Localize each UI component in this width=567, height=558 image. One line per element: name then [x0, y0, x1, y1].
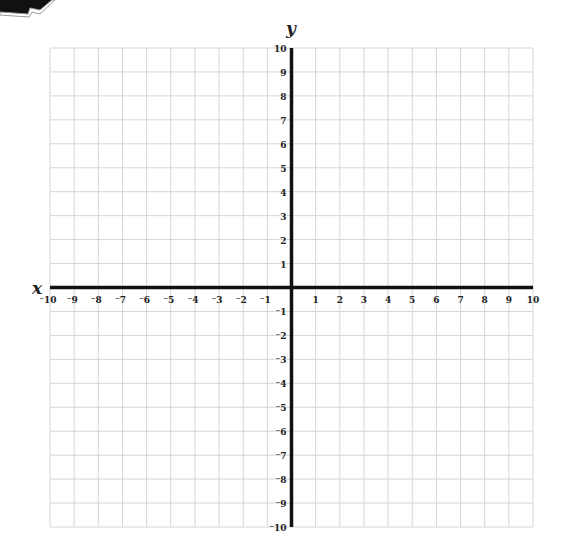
x-tick-label: 1	[313, 295, 319, 305]
y-tick-label: ⁻6	[275, 427, 286, 437]
y-tick-label: 2	[280, 236, 286, 246]
y-tick-label: 8	[280, 92, 286, 102]
y-axis-label: y	[285, 18, 297, 38]
x-axis-label: x	[31, 278, 43, 298]
y-tick-label: 1	[280, 260, 286, 270]
y-tick-label: ⁻4	[275, 379, 286, 389]
x-tick-label: ⁻7	[115, 295, 126, 305]
y-tick-label: ⁻9	[275, 499, 286, 509]
x-tick-label: ⁻9	[67, 295, 78, 305]
y-tick-label: 4	[280, 188, 286, 198]
x-tick-label: 5	[409, 295, 415, 305]
y-tick-label: ⁻7	[275, 451, 286, 461]
corner-banner-graphic	[0, 0, 55, 17]
x-tick-label: ⁻1	[260, 295, 271, 305]
y-tick-label: 6	[280, 140, 286, 150]
x-tick-label: ⁻2	[236, 295, 247, 305]
x-tick-label: 10	[527, 295, 540, 305]
x-tick-label: ⁻5	[163, 295, 174, 305]
y-tick-label: 7	[280, 116, 286, 126]
x-tick-label: 8	[482, 295, 488, 305]
x-tick-label: 9	[506, 295, 512, 305]
y-tick-label: ⁻3	[275, 355, 286, 365]
y-tick-label: ⁻10	[269, 523, 286, 533]
coordinate-plane: ⁻10⁻9⁻8⁻7⁻6⁻5⁻4⁻3⁻2⁻112345678910 1098765…	[0, 0, 567, 558]
y-tick-label: 10	[274, 44, 287, 54]
y-tick-label: ⁻8	[275, 475, 286, 485]
x-tick-label: 4	[385, 295, 391, 305]
x-tick-label: ⁻6	[139, 295, 150, 305]
x-tick-label: ⁻4	[187, 295, 198, 305]
x-tick-labels: ⁻10⁻9⁻8⁻7⁻6⁻5⁻4⁻3⁻2⁻112345678910	[39, 295, 539, 305]
y-tick-label: ⁻1	[275, 307, 286, 317]
y-tick-label: 3	[280, 212, 286, 222]
y-tick-label: ⁻2	[275, 331, 286, 341]
y-tick-label: 9	[280, 68, 286, 78]
y-tick-label: 5	[280, 164, 286, 174]
x-tick-label: ⁻8	[91, 295, 102, 305]
x-tick-label: 2	[337, 295, 343, 305]
x-tick-label: 7	[457, 295, 463, 305]
x-tick-label: 3	[361, 295, 367, 305]
y-tick-label: ⁻5	[275, 403, 286, 413]
x-tick-label: 6	[433, 295, 439, 305]
x-tick-label: ⁻3	[212, 295, 223, 305]
